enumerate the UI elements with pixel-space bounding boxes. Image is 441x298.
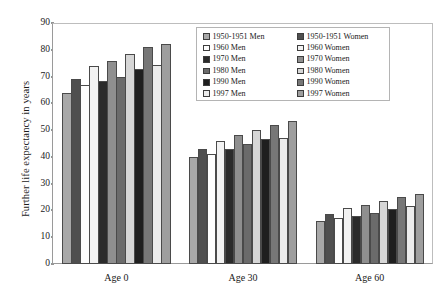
bar [270, 125, 279, 264]
bar [261, 139, 270, 264]
legend-swatch-icon [203, 90, 210, 97]
legend-item[interactable]: 1990 Men [203, 77, 295, 88]
legend-item-label: 1990 Women [307, 78, 350, 86]
bar-chart: Further life expectancy in years 0102030… [0, 0, 441, 298]
y-tick-label-30: 30 [26, 179, 50, 189]
y-tick-label-20: 20 [26, 206, 50, 216]
category-label-age-30: Age 30 [228, 272, 257, 283]
bar [116, 77, 125, 264]
legend-item-label: 1970 Men [213, 55, 246, 63]
bar [152, 65, 161, 264]
legend-swatch-icon [297, 56, 304, 63]
bar [325, 214, 334, 264]
legend-item-label: 1950-1951 Men [213, 33, 265, 41]
bar [125, 54, 134, 264]
legend-item-label: 1980 Men [213, 67, 246, 75]
legend-item[interactable]: 1997 Women [297, 88, 389, 99]
bar [161, 44, 170, 264]
legend-swatch-icon [297, 33, 304, 40]
y-tick-label-80: 80 [26, 45, 50, 55]
legend-swatch-icon [297, 68, 304, 75]
bar [397, 197, 406, 264]
bar [134, 69, 143, 264]
bar [370, 213, 379, 264]
bar [388, 209, 397, 264]
legend-item-label: 1997 Women [307, 90, 350, 98]
bar [361, 205, 370, 264]
legend-item[interactable]: 1980 Men [203, 65, 295, 76]
legend-item[interactable]: 1970 Men [203, 54, 295, 65]
x-axis-category-labels: Age 0Age 30Age 60 [53, 272, 433, 288]
y-tick-label-70: 70 [26, 72, 50, 82]
category-label-age-60: Age 60 [355, 272, 384, 283]
bar [225, 149, 234, 264]
legend-item-label: 1960 Men [213, 44, 246, 52]
legend-swatch-icon [203, 79, 210, 86]
legend-item[interactable]: 1970 Women [297, 54, 389, 65]
bar [189, 157, 198, 264]
bar [316, 221, 325, 264]
bar [207, 154, 216, 264]
bar [71, 79, 80, 264]
legend-item[interactable]: 1960 Men [203, 42, 295, 53]
legend-item-label: 1970 Women [307, 55, 350, 63]
legend-item-label: 1997 Men [213, 90, 246, 98]
y-axis-tick-labels: 0102030405060708090 [26, 0, 50, 298]
legend-swatch-icon [297, 79, 304, 86]
bar [89, 66, 98, 264]
bar [62, 93, 71, 264]
bar [143, 47, 152, 264]
chart-legend: 1950-1951 Men1960 Men1970 Men1980 Men199… [196, 27, 390, 101]
bar [198, 149, 207, 264]
bar [379, 201, 388, 264]
bar [406, 206, 415, 264]
legend-item[interactable]: 1960 Women [297, 42, 389, 53]
legend-column-1: 1950-1951 Men1960 Men1970 Men1980 Men199… [197, 31, 295, 100]
bar [252, 130, 261, 264]
legend-swatch-icon [297, 90, 304, 97]
legend-item-label: 1990 Men [213, 78, 246, 86]
y-tick-label-40: 40 [26, 152, 50, 162]
y-tick-label-0: 0 [26, 259, 50, 269]
bar [216, 141, 225, 264]
y-tick-label-90: 90 [26, 18, 50, 28]
y-tick-label-60: 60 [26, 99, 50, 109]
legend-swatch-icon [297, 45, 304, 52]
legend-column-2: 1950-1951 Women1960 Women1970 Women1980 … [295, 31, 389, 100]
bar [243, 144, 252, 265]
bar [234, 135, 243, 264]
bar-group-age-0 [62, 23, 170, 264]
category-label-age-0: Age 0 [104, 272, 128, 283]
legend-swatch-icon [203, 68, 210, 75]
bar [352, 216, 361, 264]
legend-columns: 1950-1951 Men1960 Men1970 Men1980 Men199… [197, 28, 389, 100]
bar [107, 61, 116, 265]
legend-item[interactable]: 1990 Women [297, 77, 389, 88]
y-tick-label-10: 10 [26, 232, 50, 242]
legend-item[interactable]: 1980 Women [297, 65, 389, 76]
bar [279, 138, 288, 264]
legend-item[interactable]: 1997 Men [203, 88, 295, 99]
legend-item[interactable]: 1950-1951 Men [203, 31, 295, 42]
legend-item[interactable]: 1950-1951 Women [297, 31, 389, 42]
legend-swatch-icon [203, 56, 210, 63]
bar [98, 81, 107, 264]
bar [343, 208, 352, 264]
legend-swatch-icon [203, 45, 210, 52]
y-tick-label-50: 50 [26, 125, 50, 135]
legend-item-label: 1960 Women [307, 44, 350, 52]
legend-item-label: 1950-1951 Women [307, 33, 369, 41]
legend-swatch-icon [203, 33, 210, 40]
bar [288, 121, 297, 264]
bar [334, 218, 343, 264]
bar [80, 85, 89, 264]
bar [415, 194, 424, 264]
legend-item-label: 1980 Women [307, 67, 350, 75]
